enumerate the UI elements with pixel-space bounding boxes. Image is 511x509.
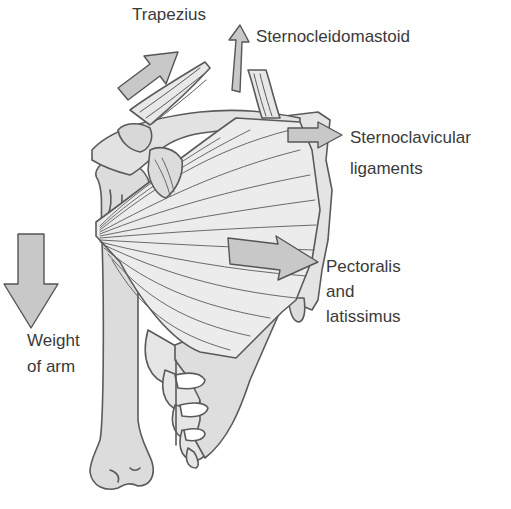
label-pectoralis-line2: and xyxy=(326,281,354,302)
sternocleidomastoid-arrow xyxy=(229,25,249,92)
anatomy-illustration xyxy=(0,0,511,509)
label-pectoralis-line3: latissimus xyxy=(326,306,401,327)
label-sternoclavicular-line2: ligaments xyxy=(350,158,423,179)
label-weight-line1: Weight xyxy=(27,330,80,351)
weight-of-arm-arrow xyxy=(4,234,58,328)
label-sternoclavicular-line1: Sternoclavicular xyxy=(350,127,471,148)
label-pectoralis-line1: Pectoralis xyxy=(326,256,401,277)
label-sternocleidomastoid: Sternocleidomastoid xyxy=(256,26,410,47)
shoulder-forces-diagram: Trapezius Sternocleidomastoid Sternoclav… xyxy=(0,0,511,509)
label-weight-line2: of arm xyxy=(27,356,75,377)
label-trapezius: Trapezius xyxy=(132,4,206,25)
